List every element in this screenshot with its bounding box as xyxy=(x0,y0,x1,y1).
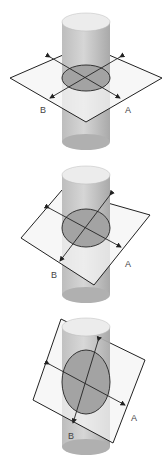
label-a: A xyxy=(125,259,131,269)
panel-slight-tilt-cut: B A xyxy=(0,150,167,305)
label-b: B xyxy=(68,431,74,441)
cylinder-top xyxy=(62,318,110,336)
cylinder-top xyxy=(62,166,110,184)
panel-horizontal-cut: B A xyxy=(0,0,167,155)
label-b: B xyxy=(40,105,46,115)
cylinder-slight-tilt-diagram: B A xyxy=(0,150,167,305)
label-a: A xyxy=(125,105,131,115)
panel-steep-tilt-cut: B A xyxy=(0,305,167,463)
label-b: B xyxy=(51,270,57,280)
cross-section-ellipse xyxy=(62,350,110,414)
cylinder-steep-tilt-diagram: B A xyxy=(0,305,167,463)
cylinder-horizontal-cut-diagram: B A xyxy=(0,0,167,155)
label-a: A xyxy=(131,413,137,423)
cylinder-top xyxy=(62,13,110,31)
